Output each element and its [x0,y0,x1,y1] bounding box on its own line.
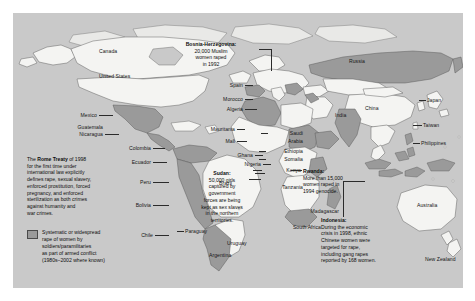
map-label-algeria: Algeria [191,107,243,113]
callout-sudan-line-6: in the northern [189,210,255,217]
map-label-united-states: United States [99,74,130,80]
leader-line-algeria [245,109,257,110]
map-label-saudi-arabia-1: Saudi [269,131,303,137]
callout-bosnia-line-3: in 1992 [163,61,259,68]
legend-line-5: (1980s–2002 where known) [42,257,105,264]
callout-rwanda-line-2: women raped in [303,181,365,188]
map-label-paraguay: Paraguay [185,229,207,235]
map-label-spain: Spain [199,83,243,89]
callout-rwanda-title: Rwanda: [303,168,324,174]
callout-indonesia-line-6: reported by 168 women. [321,257,405,264]
callout-sudan: Sudan: 50,000 girls captured by governme… [189,170,255,224]
rome-treaty-line-5: enforced prostitution, forced [27,183,139,190]
legend-line-3: soldiers/paramilitaries [42,243,105,250]
callout-rome-treaty: The Rome Treaty of 1998 for the first ti… [27,156,139,216]
callout-indonesia-line-4: targeted for rape, [321,244,405,251]
map-label-ethiopia: Ethiopia [263,149,303,155]
callout-indonesia-line-1: During the economic [321,224,405,231]
map-label-nicaragua: Nicaragua [55,132,103,138]
callout-indonesia-title: Indonesia: [321,217,346,223]
map-label-philippines: Philippines [421,141,446,147]
rome-treaty-line-4: defines rape, sexual slavery, [27,176,139,183]
leader-line-chile [155,235,169,236]
rome-treaty-line-1a: The [27,156,37,162]
map-label-nigeria: Nigeria [217,162,261,168]
rome-treaty-line-6: pregnancy, and enforced [27,190,139,197]
callout-rwanda-line-3: 1994 genocide. [303,188,365,195]
callout-sudan-line-1: 50,000 girls [189,177,255,184]
map-label-taiwan: Taiwan [423,123,439,129]
map-label-mali: Mali [189,139,235,145]
callout-sudan-line-4: forces are being [189,197,255,204]
rome-treaty-name: Rome Treaty [37,156,68,162]
rome-treaty-line-2: for the first time under [27,163,139,170]
callout-sudan-line-7: territories. [189,217,255,224]
map-label-uruguay: Uruguay [227,241,247,247]
map-label-russia: Russia [349,59,365,65]
leader-line-indonesia-vertical [343,181,344,217]
map-label-somalia: Somalia [263,157,303,163]
map-label-saudi-arabia-2: Arabia [269,139,303,145]
map-label-colombia: Colombia [109,146,151,152]
legend-swatch-shaded-country [27,230,38,239]
callout-bosnia-line-1: 20,000 Muslim [163,48,259,55]
leader-line-mexico [99,115,113,116]
callout-bosnia-line-2: women raped [163,54,259,61]
legend-line-2: rape of women by [42,236,105,243]
map-label-canada: Canada [99,49,117,55]
leader-line-nicaragua [105,134,119,135]
legend-line-4: as part of armed conflict [42,250,105,257]
rome-treaty-line-8: against humanity and [27,203,139,210]
leader-line-somalia [259,159,266,160]
leader-line-rwanda [291,170,302,171]
leader-line-japan [419,100,426,101]
map-label-new-zealand: New Zealand [425,257,456,263]
leader-line-mali [237,141,247,142]
leader-line-mauritania [237,129,245,130]
leader-line-bolivia [153,205,169,206]
leader-line-ecuador [153,162,167,163]
leader-line-saudi-arabia [261,133,268,134]
leader-line-spain [245,85,253,86]
leader-line-ghana [255,155,263,156]
world-map-figure: .land{fill:#f4f4f2;stroke:#555;stroke-wi… [13,13,463,288]
map-label-mauritania: Mauritania [179,127,235,133]
leader-line-taiwan [413,125,422,126]
leader-line-peru [153,182,169,183]
legend-description: Systematic or widespread rape of women b… [42,229,105,264]
callout-indonesia: Indonesia: During the economic crisis in… [321,217,405,264]
leader-line-morocco [245,99,253,100]
rome-treaty-line-3: international law explicitly [27,169,139,176]
map-label-ghana: Ghana [209,153,253,159]
map-label-mexico: Mexico [61,113,97,119]
leader-line-philippines [413,143,420,144]
callout-bosnia-title: Bosnia-Herzegovina: [186,41,237,47]
map-legend: Systematic or widespread rape of women b… [27,229,155,264]
callout-indonesia-line-3: Chinese women were [321,237,405,244]
callout-indonesia-line-2: crisis in 1998, ethnic [321,230,405,237]
leader-line-ethiopia [259,151,266,152]
callout-bosnia-herzegovina: Bosnia-Herzegovina: 20,000 Muslim women … [163,41,259,68]
map-label-china: China [365,106,379,112]
leader-line-nigeria [263,164,271,165]
map-label-japan: Japan [427,98,441,104]
map-label-south-africa: South Africa [269,225,321,231]
rome-treaty-line-1c: of 1998 [68,156,86,162]
map-label-madagascar: Madagascar [291,209,339,215]
leader-line-colombia [153,148,165,149]
leader-line-bosnia-vertical [271,49,272,71]
callout-sudan-line-3: government [189,190,255,197]
map-label-australia: Australia [417,203,437,209]
map-label-tanzania: Tanzania [259,185,303,191]
callout-sudan-line-5: kept as sex slaves [189,204,255,211]
callout-indonesia-line-5: including gang rapes [321,251,405,258]
leader-line-sudan [255,173,265,174]
map-label-guatemala: Guatemala [55,125,103,131]
callout-sudan-title: Sudan: [213,170,230,176]
legend-line-1: Systematic or widespread [42,229,105,236]
map-label-argentina: Argentina [209,253,231,259]
leader-line-paraguay [177,231,184,232]
rome-treaty-line-9: war crimes. [27,210,139,217]
leader-line-indonesia [343,181,365,182]
callout-sudan-line-2: captured by [189,183,255,190]
